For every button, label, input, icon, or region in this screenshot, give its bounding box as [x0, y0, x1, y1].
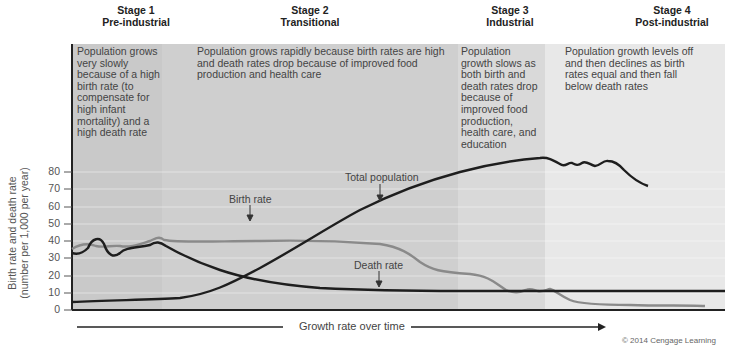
stage3-header: Stage 3 Industrial	[470, 4, 550, 28]
stage3-name: Stage 3	[470, 4, 550, 16]
y-tick-0: 0	[34, 303, 60, 315]
y-tick-40: 40	[34, 234, 60, 246]
stage4-description: Population growth levels off and then de…	[565, 46, 705, 92]
y-ticks	[64, 172, 72, 310]
stage4-subtitle: Post-industrial	[622, 16, 722, 28]
x-axis-label: Growth rate over time	[293, 320, 411, 332]
stage1-name: Stage 1	[86, 4, 186, 16]
birth-rate-label: Birth rate	[229, 193, 272, 205]
stage1-description: Population grows very slowly because of …	[77, 46, 161, 139]
y-axis-label-line1: Birth rate and death rate	[6, 148, 18, 318]
y-tick-20: 20	[34, 269, 60, 281]
stage4-header: Stage 4 Post-industrial	[622, 4, 722, 28]
stage2-name: Stage 2	[235, 4, 385, 16]
y-tick-50: 50	[34, 217, 60, 229]
y-tick-10: 10	[34, 286, 60, 298]
stage2-description: Population grows rapidly because birth r…	[197, 46, 447, 81]
stage4-name: Stage 4	[622, 4, 722, 16]
stage2-subtitle: Transitional	[235, 16, 385, 28]
total-population-label: Total population	[345, 171, 419, 183]
stage1-header: Stage 1 Pre-industrial	[86, 4, 186, 28]
stage1-subtitle: Pre-industrial	[86, 16, 186, 28]
stage3-description: Population growth slows as both birth an…	[461, 46, 543, 150]
y-tick-70: 70	[34, 182, 60, 194]
death-rate-label: Death rate	[354, 259, 403, 271]
y-tick-60: 60	[34, 200, 60, 212]
y-axis-label-line2: (number per 1,000 per year)	[18, 148, 30, 318]
stage3-subtitle: Industrial	[470, 16, 550, 28]
y-tick-80: 80	[34, 165, 60, 177]
x-arrow-head	[598, 323, 606, 331]
stage2-header: Stage 2 Transitional	[235, 4, 385, 28]
y-axis-label: Birth rate and death rate (number per 1,…	[6, 148, 30, 318]
copyright-notice: © 2014 Cengage Learning	[622, 336, 716, 345]
y-tick-30: 30	[34, 251, 60, 263]
